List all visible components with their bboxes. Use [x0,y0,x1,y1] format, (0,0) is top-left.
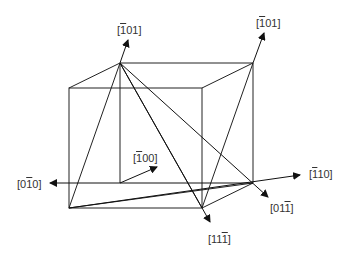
direction-label-01m1: [011] [270,202,294,215]
direction-label-m101_left: [101] [117,24,141,37]
arrow-11m1 [120,63,210,222]
direction-label-m101_right: [101] [256,17,280,30]
arrow-m101-right [253,33,264,63]
arrow-m101-left [120,40,128,63]
direction-label-11m1: [111] [208,233,231,246]
arrow-m110 [69,175,300,208]
crystal-cube-diagram [0,0,345,258]
direction-label-m110: [110] [309,168,333,181]
arrow-m100 [120,167,157,183]
direction-label-0m10: [010] [17,178,42,191]
direction-label-m100: [100] [133,152,157,165]
